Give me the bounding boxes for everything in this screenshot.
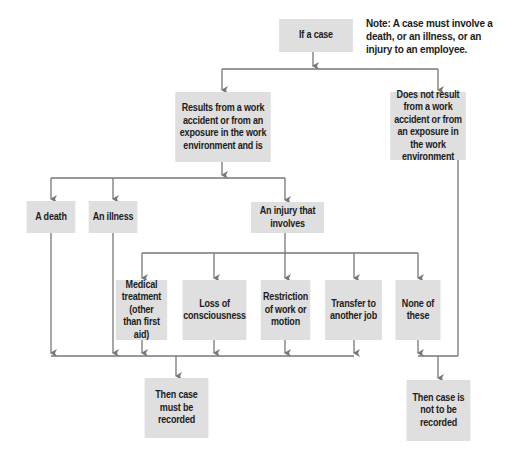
node-injury: An injury that involves [251, 202, 324, 233]
node-injury-label: An injury that involves [255, 205, 321, 230]
node-death: A death [27, 201, 76, 233]
node-start: If a case [279, 19, 353, 52]
note-text: Note: A case must involve a death, or an… [366, 17, 506, 56]
node-recorded-label: Then case must be recorded [148, 389, 205, 427]
node-not-work-related: Does not result from a work accident or … [390, 92, 466, 160]
node-illness-label: An illness [93, 211, 134, 224]
node-medical-treatment: Medical treatment (other than first aid) [116, 280, 167, 340]
node-consciousness-label: Loss of consciousness [183, 298, 246, 323]
node-none-of-these: None of these [396, 280, 441, 340]
node-transfer-label: Transfer to another job [329, 298, 379, 323]
node-work-related-label: Results from a work accident or from an … [179, 102, 267, 152]
node-not-recorded-label: Then case is not to be recorded [410, 392, 467, 430]
node-not-work-related-label: Does not result from a work accident or … [394, 89, 462, 164]
node-medical-label: Medical treatment (other than first aid) [119, 279, 163, 342]
node-restriction: Restriction of work or motion [261, 280, 311, 340]
node-not-recorded: Then case is not to be recorded [407, 380, 471, 441]
node-loss-of-consciousness: Loss of consciousness [183, 280, 247, 340]
node-restriction-label: Restriction of work or motion [263, 291, 308, 329]
node-work-related: Results from a work accident or from an … [175, 92, 270, 162]
node-illness: An illness [89, 201, 138, 233]
node-none-label: None of these [399, 298, 437, 323]
node-transfer: Transfer to another job [325, 280, 382, 340]
node-start-label: If a case [299, 29, 333, 42]
flowchart: If a case Note: A case must involve a de… [0, 0, 510, 462]
node-must-be-recorded: Then case must be recorded [145, 378, 209, 438]
node-death-label: A death [35, 211, 66, 224]
